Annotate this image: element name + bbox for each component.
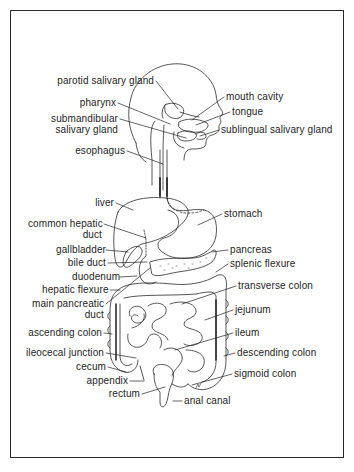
gallbladder-shape	[123, 246, 142, 267]
label-text: transverse colon	[238, 280, 328, 291]
label-text: parotid salivary gland	[26, 75, 154, 86]
pancreas-stipple	[160, 258, 207, 270]
label-liver: liver	[92, 197, 114, 208]
label-ileocecal-junction: ileocecal junction	[26, 347, 104, 358]
label-pharynx: pharynx	[60, 97, 116, 108]
label-text: appendix	[86, 375, 128, 386]
leader-rectum	[142, 387, 165, 394]
label-text: duodenum	[72, 271, 118, 282]
label-duodenum: duodenum	[72, 271, 118, 282]
leader-submandibular-salivary-gland	[120, 119, 186, 138]
leader-stomach	[198, 214, 222, 225]
leader-ileum	[175, 333, 233, 350]
leader-mouth-cavity	[192, 97, 224, 120]
label-splenic-flexure: splenic flexure	[230, 258, 306, 269]
pancreas-shape	[150, 250, 216, 276]
leader-splenic-flexure	[216, 264, 228, 272]
leader-liver	[116, 203, 133, 210]
label-tongue: tongue	[232, 106, 292, 117]
stomach-shape	[158, 198, 217, 259]
label-transverse-colon: transverse colon	[238, 280, 328, 291]
label-text: tongue	[232, 106, 292, 117]
label-ileum: ileum	[235, 327, 265, 338]
label-ascending-colon: ascending colon	[28, 327, 102, 338]
label-jejunum: jejunum	[235, 304, 281, 315]
leader-ascending-colon	[104, 333, 112, 334]
label-text: duct	[28, 229, 102, 240]
label-text: esophagus	[70, 145, 125, 156]
label-text: anal canal	[184, 395, 240, 406]
liver-shape	[114, 198, 189, 267]
label-esophagus: esophagus	[70, 145, 125, 156]
label-text: cecum	[76, 361, 106, 372]
label-text: hepatic flexure	[42, 284, 108, 295]
label-text: mouth cavity	[226, 91, 316, 102]
label-text: bile duct	[66, 257, 106, 268]
label-text: submandibular	[40, 113, 118, 124]
label-text: stomach	[224, 208, 274, 219]
label-text: main pancreatic	[32, 298, 104, 309]
label-text: ileocecal junction	[26, 347, 104, 358]
label-text: sigmoid colon	[234, 368, 304, 379]
label-gallbladder: gallbladder	[56, 244, 104, 255]
label-text: duct	[32, 309, 104, 320]
leader-duodenum	[120, 276, 137, 277]
label-cecum: cecum	[76, 361, 106, 372]
label-text: liver	[92, 197, 114, 208]
label-main-pancreatic-duct: main pancreaticduct	[32, 298, 104, 320]
label-text: pancreas	[230, 244, 280, 255]
label-appendix: appendix	[86, 375, 128, 386]
label-text: salivary gland	[40, 124, 118, 135]
label-text: ascending colon	[28, 327, 102, 338]
label-text: common hepatic	[28, 218, 102, 229]
label-bile-duct: bile duct	[66, 257, 106, 268]
label-common-hepatic-duct: common hepaticduct	[28, 218, 102, 240]
oral-structures	[162, 103, 208, 148]
label-text: sublingual salivary gland	[221, 124, 341, 135]
label-rectum: rectum	[108, 388, 140, 399]
esophagus-tube	[160, 150, 167, 198]
label-descending-colon: descending colon	[237, 347, 327, 358]
label-text: jejunum	[235, 304, 281, 315]
label-text: ileum	[235, 327, 265, 338]
leader-transverse-colon	[182, 286, 236, 304]
label-text: rectum	[108, 388, 140, 399]
label-text: descending colon	[237, 347, 327, 358]
leader-common-hepatic-duct	[104, 224, 146, 238]
label-sublingual-salivary-gland: sublingual salivary gland	[221, 124, 341, 135]
large-intestine	[108, 275, 229, 390]
label-hepatic-flexure: hepatic flexure	[42, 284, 108, 295]
label-stomach: stomach	[224, 208, 274, 219]
label-submandibular-salivary-gland: submandibularsalivary gland	[40, 113, 118, 135]
leader-gallbladder	[106, 250, 128, 252]
label-anal-canal: anal canal	[184, 395, 240, 406]
leader-esophagus	[127, 151, 163, 164]
leader-jejunum	[205, 310, 233, 320]
label-pancreas: pancreas	[230, 244, 280, 255]
label-text: gallbladder	[56, 244, 104, 255]
leader-parotid-salivary-gland	[156, 81, 178, 109]
label-text: splenic flexure	[230, 258, 306, 269]
leader-bile-duct	[108, 262, 147, 263]
label-parotid-salivary-gland: parotid salivary gland	[26, 75, 154, 86]
label-mouth-cavity: mouth cavity	[226, 91, 316, 102]
label-sigmoid-colon: sigmoid colon	[234, 368, 304, 379]
label-text: pharynx	[60, 97, 116, 108]
